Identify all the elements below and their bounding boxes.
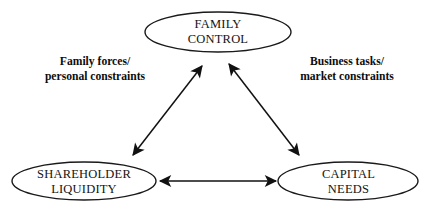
- diagram-canvas: FAMILY CONTROL SHAREHOLDER LIQUIDITY CAP…: [0, 0, 428, 219]
- node-family-control[interactable]: [145, 12, 291, 52]
- node-shareholder-liquidity[interactable]: [12, 162, 156, 200]
- arrow-shareholder-to-family-control: [133, 66, 202, 155]
- node-capital-needs[interactable]: [278, 162, 418, 200]
- diagram-svg: [0, 0, 428, 219]
- arrow-family-control-to-capital-needs: [229, 64, 299, 155]
